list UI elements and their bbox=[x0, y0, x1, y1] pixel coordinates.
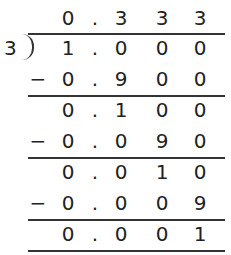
digit: 3 bbox=[150, 6, 174, 30]
digit: 0 bbox=[109, 36, 133, 60]
digit: 0 bbox=[56, 191, 80, 215]
minus-sign: − bbox=[26, 67, 50, 91]
digit: 3 bbox=[188, 6, 212, 30]
digit: 9 bbox=[150, 129, 174, 153]
digit: 0 bbox=[188, 67, 212, 91]
digit: 3 bbox=[109, 6, 133, 30]
digit: 1 bbox=[188, 222, 212, 246]
decimal-point: . bbox=[83, 222, 107, 246]
digit: 0 bbox=[56, 222, 80, 246]
digit: 1 bbox=[150, 160, 174, 184]
digit: 0 bbox=[109, 191, 133, 215]
digit: 0 bbox=[109, 160, 133, 184]
minus-sign: − bbox=[26, 129, 50, 153]
decimal-point: . bbox=[83, 6, 107, 30]
digit: 0 bbox=[150, 67, 174, 91]
decimal-point: . bbox=[83, 67, 107, 91]
digit: 0 bbox=[109, 129, 133, 153]
minus-sign: − bbox=[26, 191, 50, 215]
final-rule bbox=[28, 250, 225, 252]
digit: 1 bbox=[56, 36, 80, 60]
digit: 0 bbox=[56, 98, 80, 122]
decimal-point: . bbox=[83, 36, 107, 60]
digit: 0 bbox=[56, 129, 80, 153]
decimal-point: . bbox=[83, 98, 107, 122]
divisor: 3 bbox=[4, 36, 17, 60]
subtraction-rule-2 bbox=[28, 157, 225, 159]
decimal-point: . bbox=[83, 160, 107, 184]
digit: 0 bbox=[188, 129, 212, 153]
decimal-point: . bbox=[83, 129, 107, 153]
digit: 1 bbox=[109, 98, 133, 122]
digit: 0 bbox=[150, 98, 174, 122]
vinculum-line bbox=[28, 33, 225, 35]
digit: 0 bbox=[188, 36, 212, 60]
digit: 0 bbox=[56, 6, 80, 30]
digit: 9 bbox=[188, 191, 212, 215]
digit: 0 bbox=[188, 160, 212, 184]
decimal-point: . bbox=[83, 191, 107, 215]
digit: 9 bbox=[109, 67, 133, 91]
digit: 0 bbox=[56, 160, 80, 184]
digit: 0 bbox=[150, 222, 174, 246]
digit: 0 bbox=[56, 67, 80, 91]
subtraction-rule-1 bbox=[28, 95, 225, 97]
digit: 0 bbox=[150, 191, 174, 215]
division-bracket bbox=[22, 34, 34, 60]
digit: 0 bbox=[188, 98, 212, 122]
subtraction-rule-3 bbox=[28, 219, 225, 221]
digit: 0 bbox=[150, 36, 174, 60]
digit: 0 bbox=[109, 222, 133, 246]
